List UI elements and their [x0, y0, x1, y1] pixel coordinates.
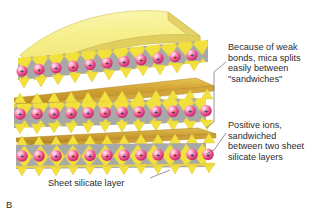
positive-ion: + [67, 61, 78, 72]
positive-ion: + [33, 150, 45, 162]
figure-panel: + + + + + [0, 0, 323, 216]
svg-text:+: + [122, 58, 127, 67]
positive-ion: + [101, 149, 113, 161]
positive-ion: + [101, 57, 112, 68]
caption-sheet-silicate-layer: Sheet silicate layer [48, 178, 124, 189]
positive-ion: + [135, 54, 146, 65]
svg-text:+: + [105, 59, 110, 68]
svg-text:+: + [137, 108, 142, 117]
positive-ion: + [65, 107, 77, 119]
svg-text:+: + [190, 151, 195, 160]
svg-text:+: + [120, 109, 125, 118]
positive-ion: + [84, 59, 95, 70]
positive-ion: + [84, 150, 96, 162]
positive-ion: + [152, 149, 164, 161]
positive-ion: + [31, 108, 43, 120]
positive-ion: + [116, 106, 128, 118]
svg-text:+: + [35, 110, 40, 119]
positive-ion: + [150, 106, 162, 118]
positive-ion: + [16, 65, 27, 76]
annotation-weak-bonds: Because of weak bonds, mica splits easil… [228, 42, 322, 84]
positive-ion: + [133, 106, 145, 118]
svg-text:+: + [173, 53, 178, 62]
positive-ion: + [67, 150, 79, 162]
svg-text:+: + [154, 108, 159, 117]
svg-text:+: + [69, 110, 74, 119]
svg-text:+: + [20, 67, 25, 76]
positive-ion: + [118, 56, 129, 67]
svg-text:+: + [20, 152, 25, 161]
positive-ion: + [186, 149, 198, 161]
svg-text:+: + [52, 110, 57, 119]
svg-text:+: + [18, 110, 23, 119]
svg-text:+: + [190, 51, 195, 60]
svg-text:+: + [173, 151, 178, 160]
svg-text:+: + [86, 109, 91, 118]
svg-text:+: + [88, 61, 93, 70]
panel-label: B [6, 199, 12, 210]
svg-text:+: + [54, 64, 59, 73]
positive-ion: + [118, 149, 130, 161]
positive-ion: + [169, 149, 181, 161]
svg-text:+: + [188, 107, 193, 116]
svg-text:+: + [139, 56, 144, 65]
annotation-positive-ions: Positive ions, sandwiched between two sh… [228, 120, 322, 162]
positive-ion: + [99, 107, 111, 119]
svg-text:+: + [88, 152, 93, 161]
positive-ion: + [169, 51, 180, 62]
positive-ion: + [167, 106, 179, 118]
svg-text:+: + [37, 152, 42, 161]
svg-text:+: + [71, 63, 76, 72]
svg-text:+: + [156, 55, 161, 64]
positive-ion: + [33, 64, 44, 75]
positive-ion: + [184, 105, 196, 117]
positive-ion: + [14, 108, 26, 120]
svg-text:+: + [139, 151, 144, 160]
svg-text:+: + [105, 152, 110, 161]
positive-ion: + [202, 149, 214, 161]
positive-ion: + [82, 107, 94, 119]
svg-text:+: + [122, 152, 127, 161]
positive-ion: + [186, 49, 197, 60]
positive-ion: + [50, 150, 62, 162]
positive-ion: + [200, 105, 212, 117]
positive-ion: + [48, 108, 60, 120]
svg-text:+: + [37, 66, 42, 75]
positive-ion: + [152, 53, 163, 64]
positive-ion: + [50, 62, 61, 73]
svg-text:+: + [103, 109, 108, 118]
svg-text:+: + [156, 151, 161, 160]
svg-text:+: + [71, 152, 76, 161]
svg-text:+: + [54, 152, 59, 161]
positive-ion: + [16, 150, 28, 162]
positive-ion: + [135, 149, 147, 161]
svg-text:+: + [204, 107, 209, 116]
svg-text:+: + [171, 108, 176, 117]
